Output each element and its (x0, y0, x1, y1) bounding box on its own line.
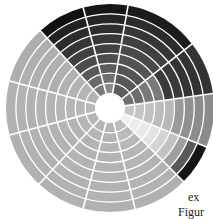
center-hole (95, 93, 125, 123)
caption-fragment-1: ex (188, 190, 199, 205)
polar-ring-chart (0, 0, 213, 219)
caption-fragment-2: Figur (178, 205, 204, 219)
